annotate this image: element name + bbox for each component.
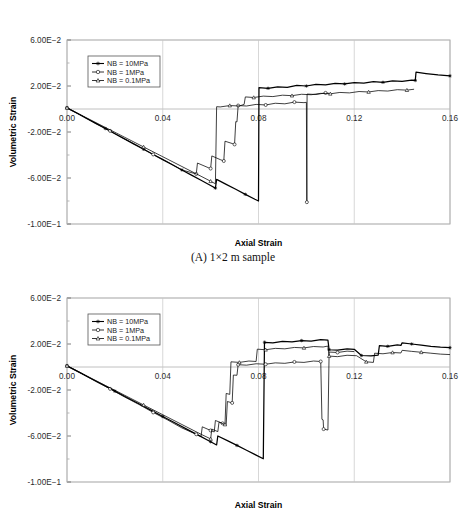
triangle-marker <box>329 92 332 95</box>
y-axis: 6.00E−22.00E−2-2.00E−2-6.00E−2-1.00E−1 <box>28 294 71 487</box>
y-tick-label: 6.00E−2 <box>30 36 61 45</box>
open-circle-marker <box>233 143 236 146</box>
legend: NB = 10MPaNB = 1MPaNB = 0.1MPa <box>88 314 160 345</box>
x-tick-label: 0.12 <box>346 114 362 123</box>
open-circle-marker <box>96 328 99 331</box>
y-tick-label: -6.00E−2 <box>28 432 62 441</box>
star-marker <box>96 62 100 66</box>
y-tick-label: 6.00E−2 <box>30 294 61 303</box>
figure-b: 6.00E−22.00E−2-2.00E−2-6.00E−2-1.00E−10.… <box>0 276 466 519</box>
x-tick-label: 0.12 <box>346 372 362 381</box>
y-tick-label: 2.00E−2 <box>30 82 61 91</box>
x-tick-label: 0.16 <box>442 114 458 123</box>
x-axis-label: Axial Strain <box>235 238 282 248</box>
figure-a-caption: (A) 1×2 m sample <box>0 251 466 263</box>
star-marker <box>209 440 212 443</box>
triangle-marker <box>290 94 293 97</box>
x-tick-label: 0.16 <box>442 372 458 381</box>
triangle-marker <box>228 104 231 107</box>
cropped-header-strip <box>0 0 466 18</box>
series-2 <box>65 351 354 437</box>
series-line <box>67 351 354 436</box>
open-circle-marker <box>305 201 308 204</box>
open-circle-marker <box>195 433 198 436</box>
y-tick-label: -2.00E−2 <box>28 128 62 137</box>
triangle-marker <box>365 360 368 363</box>
y-tick-label: -2.00E−2 <box>28 386 62 395</box>
star-marker <box>414 79 417 82</box>
star-marker <box>343 82 346 85</box>
star-marker <box>386 345 389 348</box>
legend-label: NB = 0.1MPa <box>107 334 150 343</box>
open-circle-marker <box>336 351 339 354</box>
triangle-marker <box>142 403 145 406</box>
x-tick-label: 0.00 <box>59 372 75 381</box>
triangle-marker <box>327 354 330 357</box>
y-tick-label: -1.00E−1 <box>28 220 62 229</box>
open-circle-marker <box>319 360 322 363</box>
triangle-marker <box>405 88 408 91</box>
y-axis: 6.00E−22.00E−2-2.00E−2-6.00E−2-1.00E−1 <box>28 36 71 229</box>
open-circle-marker <box>152 153 155 156</box>
x-axis-label: Axial Strain <box>235 500 282 510</box>
open-circle-marker <box>293 360 296 363</box>
y-tick-label: -1.00E−1 <box>28 478 62 487</box>
open-circle-marker <box>209 167 212 170</box>
star-marker <box>448 74 451 77</box>
series-3 <box>65 346 450 440</box>
triangle-marker <box>142 145 145 148</box>
series-line <box>67 72 450 201</box>
star-marker <box>300 339 303 342</box>
star-marker <box>360 354 363 357</box>
x-tick-label: 0.00 <box>59 114 75 123</box>
triangle-marker <box>252 96 255 99</box>
triangle-marker <box>391 351 394 354</box>
star-marker <box>381 81 384 84</box>
open-circle-marker <box>322 428 325 431</box>
series-3 <box>65 88 414 183</box>
chart-b-canvas: 6.00E−22.00E−2-2.00E−2-6.00E−2-1.00E−10.… <box>0 276 466 516</box>
y-axis-label: Volumetric Strain <box>8 355 18 426</box>
open-circle-marker <box>264 363 267 366</box>
open-circle-marker <box>96 70 99 73</box>
y-tick-label: -6.00E−2 <box>28 174 62 183</box>
y-tick-label: 2.00E−2 <box>30 340 61 349</box>
open-circle-marker <box>264 103 267 106</box>
triangle-marker <box>238 361 241 364</box>
star-marker <box>305 84 308 87</box>
triangle-marker <box>367 90 370 93</box>
legend: NB = 10MPaNB = 1MPaNB = 0.1MPa <box>88 56 160 87</box>
star-marker <box>266 87 269 90</box>
star-marker <box>410 342 413 345</box>
open-circle-marker <box>222 159 225 162</box>
x-tick-label: 0.04 <box>155 372 171 381</box>
chart-a-canvas: 6.00E−22.00E−2-2.00E−2-6.00E−2-1.00E−10.… <box>0 18 466 250</box>
triangle-marker <box>302 346 305 349</box>
figure-a: 6.00E−22.00E−2-2.00E−2-6.00E−2-1.00E−10.… <box>0 18 466 276</box>
open-circle-marker <box>293 101 296 104</box>
star-marker <box>448 346 451 349</box>
legend-label: NB = 0.1MPa <box>107 76 150 85</box>
series-2 <box>65 91 329 203</box>
open-circle-marker <box>152 411 155 414</box>
triangle-marker <box>209 180 212 183</box>
x-tick-label: 0.04 <box>155 114 171 123</box>
star-marker <box>263 341 266 344</box>
y-axis-label: Volumetric Strain <box>8 97 18 168</box>
star-marker <box>96 320 100 324</box>
triangle-marker <box>420 351 423 354</box>
open-circle-marker <box>231 401 234 404</box>
triangle-marker <box>209 437 212 440</box>
